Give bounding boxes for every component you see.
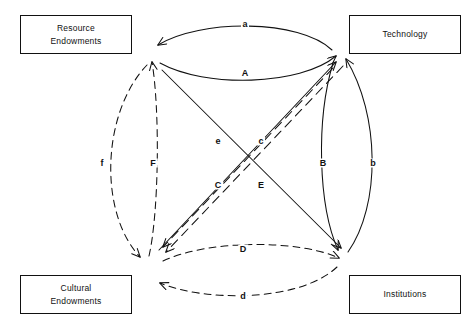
edge-label-C: C (213, 181, 223, 190)
edge-label-D: D (238, 245, 248, 254)
edge-label-b: b (369, 159, 378, 168)
edge-D-path (163, 244, 339, 261)
node-technology[interactable]: Technology (349, 15, 461, 54)
edge-b-path (346, 59, 372, 252)
edge-f-path (111, 65, 147, 257)
edge-c-path (159, 62, 336, 250)
node-cultural-endowments-label: Cultural Endowments (50, 282, 101, 307)
diagram-canvas: Resource Endowments Technology Cultural … (0, 0, 474, 327)
edge-e-path (163, 68, 333, 247)
edge-B-path (322, 63, 338, 250)
edge-label-e: e (214, 137, 222, 146)
edge-label-a: a (241, 20, 249, 29)
node-technology-label: Technology (382, 28, 427, 40)
edge-a-path (158, 26, 332, 50)
edge-label-c: c (257, 137, 265, 146)
edge-label-E: E (256, 181, 265, 190)
edge-d-path (160, 267, 337, 296)
edge-E-path (162, 70, 341, 248)
node-resource-endowments[interactable]: Resource Endowments (20, 15, 132, 54)
node-resource-endowments-label: Resource Endowments (50, 22, 101, 47)
edge-label-A: A (240, 69, 250, 78)
node-institutions-label: Institutions (383, 288, 426, 300)
node-cultural-endowments[interactable]: Cultural Endowments (20, 275, 132, 314)
node-institutions[interactable]: Institutions (349, 275, 461, 314)
edge-label-d: d (239, 292, 248, 301)
edge-label-B: B (318, 159, 328, 168)
edge-label-F: F (149, 159, 158, 168)
edge-label-f: f (99, 159, 105, 168)
